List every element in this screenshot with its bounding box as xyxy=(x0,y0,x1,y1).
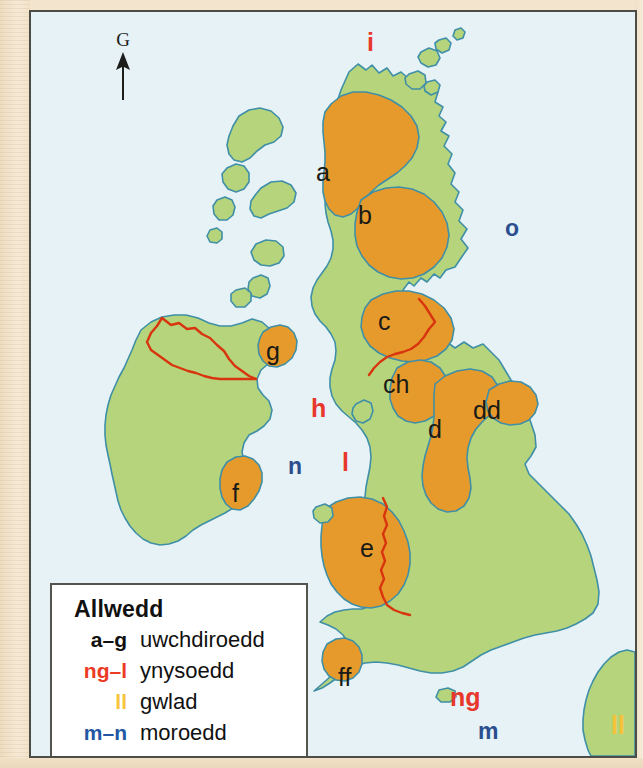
map-label-ch: ch xyxy=(383,372,409,397)
north-arrow-letter: G xyxy=(103,30,143,49)
legend-row: m–nmoroedd xyxy=(52,720,306,750)
map-label-l: l xyxy=(342,450,349,475)
north-arrow-icon xyxy=(114,50,132,102)
map-label-f: f xyxy=(232,481,239,506)
legend-description: uwchdiroedd xyxy=(140,627,265,653)
map-label-n: n xyxy=(288,455,302,478)
map-label-b: b xyxy=(358,203,372,228)
north-arrow: G xyxy=(103,30,143,104)
island-mull xyxy=(251,240,284,266)
legend-row: a–guwchdiroedd xyxy=(52,627,306,657)
map-frame: G iabocgchddhdnlfeffngmll Allwedd a–guwc… xyxy=(29,10,637,758)
legend-box: Allwedd a–guwchdiroeddng–lynysoeddllgwla… xyxy=(50,583,308,758)
legend-key: ng–l xyxy=(52,659,140,683)
page-left-margin xyxy=(0,0,30,768)
island-islay xyxy=(231,288,251,307)
map-label-o: o xyxy=(505,217,519,240)
map-label-m: m xyxy=(478,720,498,743)
island-orkney-4 xyxy=(424,80,440,95)
legend-key: m–n xyxy=(52,721,140,745)
legend-description: gwlad xyxy=(140,689,197,715)
map-label-h: h xyxy=(311,396,326,421)
map-label-ff: ff xyxy=(338,665,351,690)
legend-key: a–g xyxy=(52,628,140,652)
map-label-d: d xyxy=(428,417,442,442)
island-anglesey xyxy=(313,504,333,523)
map-label-c: c xyxy=(378,309,391,334)
legend-description: moroedd xyxy=(140,720,227,746)
map-label-ng: ng xyxy=(450,685,481,710)
page-bottom-margin xyxy=(0,758,643,768)
map-label-g: g xyxy=(266,339,280,364)
island-outer-hebrides-south xyxy=(213,197,235,220)
legend-row: llgwlad xyxy=(52,689,306,719)
map-label-i: i xyxy=(367,30,374,55)
map-label-e: e xyxy=(360,536,374,561)
island-barra xyxy=(207,228,222,243)
legend-description: ynysoedd xyxy=(140,658,234,684)
legend-row: ng–lynysoedd xyxy=(52,658,306,688)
island-orkney-2 xyxy=(435,38,451,53)
legend-key: ll xyxy=(52,690,140,714)
map-label-a: a xyxy=(316,160,330,185)
map-label-dd: dd xyxy=(473,398,501,423)
legend-rows: a–guwchdiroeddng–lynysoeddllgwladm–nmoro… xyxy=(52,627,306,750)
legend-title: Allwedd xyxy=(74,596,306,623)
island-shetland-small xyxy=(453,28,465,40)
map-label-ll: ll xyxy=(611,713,625,738)
